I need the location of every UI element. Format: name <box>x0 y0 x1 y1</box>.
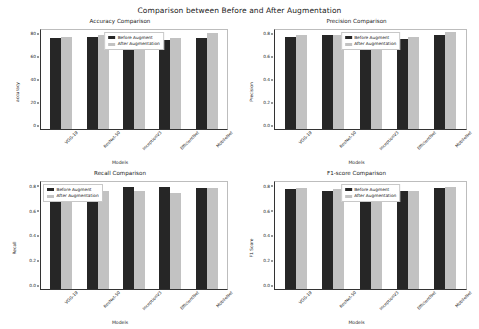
x-tick-label-vgg-19: VGG-19 <box>298 130 313 145</box>
bar-before-mobilenet <box>434 188 445 289</box>
bar-after-vgg-19 <box>296 188 307 289</box>
legend-swatch-after-icon <box>108 43 115 46</box>
bar-before-vgg-19 <box>50 38 61 129</box>
legend-swatch-before-icon <box>345 36 352 39</box>
bar-before-efficientnet <box>397 39 408 129</box>
bar-group <box>277 182 314 289</box>
legend-f1-score: Before AugmentAfter Augmentation <box>341 184 401 202</box>
legend-entry-after: After Augmentation <box>47 193 99 199</box>
x-tick-label-mobilenet: MobileNet <box>454 130 472 148</box>
y-axis-ticks-f1-score: 0.00.20.40.60.8 <box>240 181 273 290</box>
bar-group <box>427 30 464 129</box>
bar-before-vgg-19 <box>50 189 61 289</box>
x-axis-ticks-f1-score: VGG-19ResNet-50InceptionV3EfficientNetMo… <box>274 290 467 314</box>
bar-before-efficientnet <box>159 40 170 129</box>
legend-swatch-before-icon <box>108 36 115 39</box>
x-tick-label-inceptionv3: InceptionV3 <box>141 290 162 311</box>
legend-swatch-after-icon <box>47 195 54 198</box>
x-axis-label-f1-score: Models <box>240 320 473 325</box>
bar-after-mobilenet <box>207 188 218 289</box>
x-axis-label-recall: Models <box>6 320 234 325</box>
y-tick-label: 0.2 <box>29 258 36 263</box>
y-tick-label: 80 <box>31 31 36 36</box>
subplot-accuracy: Accuracy Comparisonaccuracy020406080Befo… <box>6 18 234 166</box>
subplot-title-f1-score: F1-score Comparison <box>240 170 473 176</box>
bar-after-mobilenet <box>207 33 218 129</box>
plot-axes-f1-score: Before AugmentAfter Augmentation <box>274 181 467 290</box>
legend-swatch-after-icon <box>345 43 352 46</box>
subplot-precision: Precision ComparisonPrecision0.00.20.40.… <box>240 18 473 166</box>
x-axis-label-precision: Models <box>240 160 473 165</box>
subplot-title-accuracy: Accuracy Comparison <box>6 18 234 24</box>
bar-group <box>277 30 314 129</box>
subplot-f1score: F1-score ComparisonF1 Score0.00.20.40.60… <box>240 170 473 326</box>
x-tick-label-efficientnet: EfficientNet <box>179 290 200 311</box>
bar-after-mobilenet <box>445 187 456 289</box>
x-tick-label-resnet-50: ResNet-50 <box>103 290 122 309</box>
y-tick-label: 40 <box>31 77 36 82</box>
y-tick-label: 0.8 <box>29 183 36 188</box>
y-axis-ticks-precision: 0.00.20.40.60.8 <box>240 29 273 130</box>
subplot-title-recall: Recall Comparison <box>6 170 234 176</box>
y-axis-ticks-accuracy: 020406080 <box>6 29 39 130</box>
y-tick-label: 0.2 <box>263 258 270 263</box>
bar-group <box>189 30 225 129</box>
y-tick-label: 60 <box>31 54 36 59</box>
bar-group <box>189 182 225 289</box>
bar-before-vgg-19 <box>285 37 296 129</box>
x-tick-label-efficientnet: EfficientNet <box>179 130 200 151</box>
bar-before-resnet-50 <box>322 191 333 289</box>
x-axis-label-accuracy: Models <box>6 160 234 165</box>
y-tick-label: 0.4 <box>263 233 270 238</box>
bar-before-vgg-19 <box>285 189 296 289</box>
legend-swatch-before-icon <box>47 188 54 191</box>
x-axis-ticks-recall: VGG-19ResNet-50InceptionV3EfficientNetMo… <box>40 290 228 314</box>
x-tick-label-vgg-19: VGG-19 <box>64 130 79 145</box>
y-tick-label: 0 <box>33 123 36 128</box>
y-tick-label: 0.6 <box>263 54 270 59</box>
x-tick-label-mobilenet: MobileNet <box>454 290 472 308</box>
plot-axes-recall: Before AugmentAfter Augmentation <box>40 181 228 290</box>
matplotlib-figure: Comparison between Before and After Augm… <box>0 0 479 329</box>
y-tick-label: 0.4 <box>263 77 270 82</box>
legend-entry-after: After Augmentation <box>345 41 397 47</box>
legend-accuracy: Before AugmentAfter Augmentation <box>104 32 164 50</box>
bar-before-inceptionv3 <box>123 44 134 130</box>
x-tick-label-efficientnet: EfficientNet <box>416 290 437 311</box>
x-tick-label-mobilenet: MobileNet <box>215 290 233 308</box>
x-axis-ticks-precision: VGG-19ResNet-50InceptionV3EfficientNetMo… <box>274 130 467 154</box>
legend-recall: Before AugmentAfter Augmentation <box>43 184 103 202</box>
subplot-title-precision: Precision Comparison <box>240 18 473 24</box>
bar-after-inceptionv3 <box>134 39 145 129</box>
x-tick-label-vgg-19: VGG-19 <box>64 290 79 305</box>
y-tick-label: 0.2 <box>263 100 270 105</box>
legend-label-after: After Augmentation <box>354 41 396 47</box>
y-tick-label: 0.8 <box>263 183 270 188</box>
bar-before-resnet-50 <box>87 193 98 289</box>
bar-before-resnet-50 <box>87 37 98 129</box>
x-tick-label-resnet-50: ResNet-50 <box>103 130 122 149</box>
bar-group <box>116 182 152 289</box>
bar-after-vgg-19 <box>61 189 72 289</box>
x-tick-label-inceptionv3: InceptionV3 <box>378 130 399 151</box>
x-tick-label-inceptionv3: InceptionV3 <box>141 130 162 151</box>
bar-group <box>152 182 188 289</box>
figure-suptitle: Comparison between Before and After Augm… <box>0 6 479 15</box>
x-tick-label-inceptionv3: InceptionV3 <box>378 290 399 311</box>
bar-after-inceptionv3 <box>371 42 382 129</box>
legend-entry-after: After Augmentation <box>108 41 160 47</box>
x-tick-label-mobilenet: MobileNet <box>215 130 233 148</box>
bar-after-resnet-50 <box>333 189 344 289</box>
bar-before-inceptionv3 <box>123 187 134 289</box>
x-tick-label-vgg-19: VGG-19 <box>298 290 313 305</box>
bar-group <box>43 30 79 129</box>
bar-after-efficientnet <box>408 191 419 289</box>
bar-before-mobilenet <box>196 188 207 289</box>
y-tick-label: 0.6 <box>263 208 270 213</box>
bar-before-efficientnet <box>397 191 408 289</box>
bar-after-mobilenet <box>445 32 456 129</box>
bar-before-inceptionv3 <box>360 193 371 289</box>
legend-swatch-before-icon <box>345 188 352 191</box>
y-tick-label: 0.0 <box>263 283 270 288</box>
bar-after-resnet-50 <box>98 191 109 289</box>
